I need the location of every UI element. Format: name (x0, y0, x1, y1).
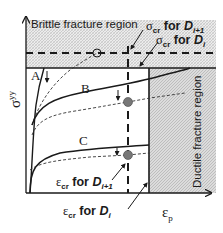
ductile-region-label: Ductile fracture region (191, 76, 203, 189)
eps-cr-next-arrow (112, 164, 125, 180)
curve-label-a: A (31, 68, 41, 83)
curve-label-c: C (79, 133, 88, 148)
y-axis-label: σyy (6, 90, 23, 108)
filled-point-b (124, 98, 133, 107)
curve-label-b: B (81, 81, 90, 96)
eps-cr-i-arrow (128, 183, 147, 209)
eps-cr-i-label: εcr for Di (63, 204, 111, 220)
eps-cr-next-label: εcr for Di+1 (56, 175, 113, 191)
svg-text:σyy: σyy (6, 90, 23, 108)
filled-point-c (124, 151, 133, 160)
x-axis-label: εp (162, 204, 173, 223)
ductile-region (149, 68, 216, 193)
fracture-diagram: Brittle fracture region Ductile fracture… (0, 0, 223, 233)
brittle-region-label: Brittle fracture region (31, 18, 138, 30)
